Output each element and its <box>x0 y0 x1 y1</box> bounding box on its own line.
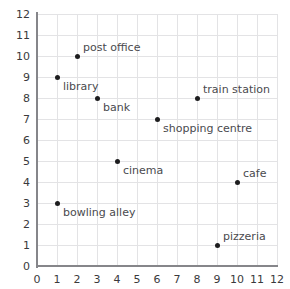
x-tick-label: 7 <box>174 274 181 285</box>
gridline-horizontal <box>37 182 277 183</box>
gridline-horizontal <box>37 245 277 246</box>
data-point-label: train station <box>203 84 270 95</box>
y-tick-label: 10 <box>0 51 30 62</box>
plot-area: librarypost officebanktrain stationshopp… <box>37 14 277 266</box>
data-point-label: bank <box>103 102 130 113</box>
data-point-label: pizzeria <box>223 231 266 242</box>
y-tick-label: 4 <box>0 177 30 188</box>
data-point[interactable] <box>155 117 160 122</box>
y-tick-label: 6 <box>0 135 30 146</box>
x-tick-label: 4 <box>114 274 121 285</box>
scatter-plot: librarypost officebanktrain stationshopp… <box>0 0 290 289</box>
y-tick-label: 8 <box>0 93 30 104</box>
x-tick-label: 6 <box>154 274 161 285</box>
data-point-label: cafe <box>243 168 266 179</box>
data-point-label: library <box>63 81 98 92</box>
gridline-horizontal <box>37 161 277 162</box>
y-tick-label: 3 <box>0 198 30 209</box>
x-tick-label: 2 <box>74 274 81 285</box>
data-point[interactable] <box>55 201 60 206</box>
x-tick-label: 12 <box>270 274 284 285</box>
x-tick-label: 10 <box>230 274 244 285</box>
data-point[interactable] <box>235 180 240 185</box>
data-point[interactable] <box>215 243 220 248</box>
y-tick-label: 0 <box>0 261 30 272</box>
data-point[interactable] <box>75 54 80 59</box>
gridline-horizontal <box>37 77 277 78</box>
data-point[interactable] <box>195 96 200 101</box>
x-tick-label: 11 <box>250 274 264 285</box>
y-tick-label: 9 <box>0 72 30 83</box>
data-point-label: post office <box>83 42 140 53</box>
gridline-horizontal <box>37 203 277 204</box>
x-tick-label: 1 <box>54 274 61 285</box>
gridline-horizontal <box>37 224 277 225</box>
data-point[interactable] <box>95 96 100 101</box>
data-point-label: bowling alley <box>63 207 135 218</box>
y-axis-line <box>36 12 38 268</box>
gridline-horizontal <box>37 35 277 36</box>
data-point[interactable] <box>55 75 60 80</box>
gridline-horizontal <box>37 56 277 57</box>
x-tick-label: 9 <box>214 274 221 285</box>
y-tick-label: 1 <box>0 240 30 251</box>
y-tick-label: 12 <box>0 9 30 20</box>
x-axis-line <box>36 265 278 267</box>
data-point[interactable] <box>115 159 120 164</box>
y-tick-label: 7 <box>0 114 30 125</box>
data-point-label: cinema <box>123 165 163 176</box>
y-tick-label: 11 <box>0 30 30 41</box>
x-tick-label: 5 <box>134 274 141 285</box>
x-tick-label: 3 <box>94 274 101 285</box>
y-tick-label: 2 <box>0 219 30 230</box>
data-point-label: shopping centre <box>163 123 252 134</box>
y-tick-label: 5 <box>0 156 30 167</box>
gridline-horizontal <box>37 98 277 99</box>
x-tick-label: 8 <box>194 274 201 285</box>
x-tick-label: 0 <box>34 274 41 285</box>
gridline-horizontal <box>37 14 277 15</box>
gridline-vertical <box>277 14 278 266</box>
gridline-horizontal <box>37 140 277 141</box>
